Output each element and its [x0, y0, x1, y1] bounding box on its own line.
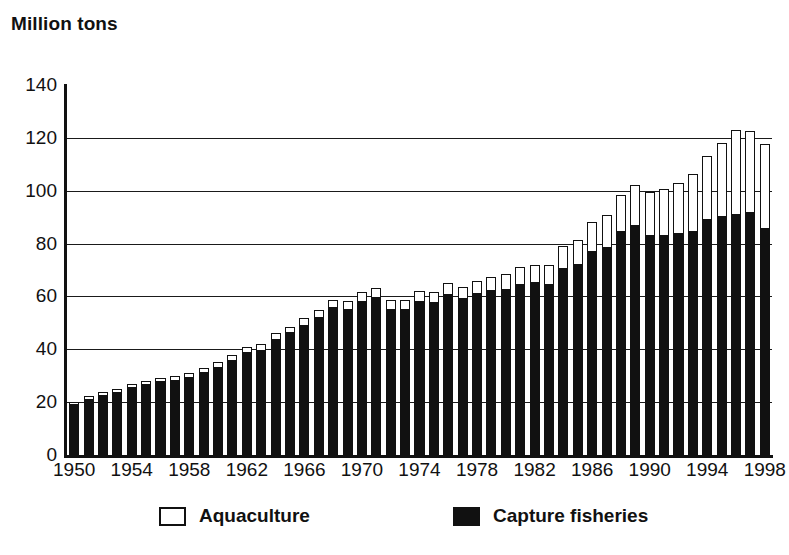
bar-segment-capture-1959	[199, 373, 209, 455]
bar-1992	[673, 183, 683, 455]
bar-segment-aquaculture-1988	[616, 195, 626, 232]
x-tick-label-1962: 1962	[226, 459, 268, 481]
bar-segment-capture-1952	[98, 396, 108, 455]
bar-1988	[616, 195, 626, 455]
bar-segment-aquaculture-1998	[760, 144, 770, 229]
x-tick-label-1958: 1958	[168, 459, 210, 481]
bar-segment-capture-1966	[299, 326, 309, 456]
bar-segment-aquaculture-1951	[84, 396, 94, 399]
bar-segment-aquaculture-1952	[98, 392, 108, 395]
bar-segment-capture-1956	[155, 382, 165, 455]
bar-segment-aquaculture-1996	[731, 130, 741, 215]
bar-1985	[573, 240, 583, 455]
bar-1990	[645, 192, 655, 455]
bar-segment-capture-1987	[602, 248, 612, 455]
bar-1976	[443, 283, 453, 455]
bar-1969	[343, 301, 353, 455]
bar-segment-aquaculture-1974	[414, 291, 424, 302]
x-axis-line	[64, 455, 773, 458]
bar-1951	[84, 396, 94, 455]
bar-1972	[386, 300, 396, 455]
legend-swatch-capture-fisheries-icon	[453, 507, 480, 526]
fishery-production-chart-figure: Million tons 140120100806040200 19501954…	[0, 0, 789, 555]
bar-segment-capture-1979	[486, 291, 496, 455]
bar-1959	[199, 368, 209, 455]
bar-1982	[530, 265, 540, 455]
x-tick-label-1994: 1994	[686, 459, 728, 481]
bar-1989	[630, 185, 640, 455]
bar-segment-aquaculture-1994	[702, 156, 712, 219]
bar-1987	[602, 215, 612, 456]
bar-segment-aquaculture-1960	[213, 362, 223, 368]
bar-1980	[501, 274, 511, 455]
bar-1950	[69, 402, 79, 455]
bar-segment-capture-1993	[688, 232, 698, 455]
y-tick-label-100: 100	[11, 181, 57, 200]
bar-segment-capture-1990	[645, 236, 655, 455]
bar-segment-capture-1953	[112, 393, 122, 455]
bar-segment-aquaculture-1977	[458, 287, 468, 299]
bar-segment-capture-1954	[127, 388, 137, 455]
bar-segment-aquaculture-1967	[314, 310, 324, 318]
bar-segment-aquaculture-1979	[486, 277, 496, 292]
bar-1993	[688, 174, 698, 455]
bar-1977	[458, 287, 468, 455]
bar-segment-aquaculture-1950	[69, 402, 79, 405]
bar-segment-capture-1951	[84, 400, 94, 456]
bar-segment-aquaculture-1980	[501, 274, 511, 290]
bar-segment-capture-1961	[227, 361, 237, 455]
y-tick-label-60: 60	[11, 286, 57, 305]
bar-segment-aquaculture-1984	[558, 246, 568, 268]
bar-segment-capture-1997	[745, 213, 755, 455]
bar-segment-capture-1976	[443, 295, 453, 455]
bar-1958	[184, 373, 194, 455]
bar-1986	[587, 222, 597, 455]
bar-segment-aquaculture-1961	[227, 355, 237, 361]
bar-1991	[659, 189, 669, 455]
x-tick-label-1974: 1974	[398, 459, 440, 481]
bar-segment-capture-1964	[271, 340, 281, 455]
bar-1956	[155, 378, 165, 455]
bar-segment-capture-1986	[587, 252, 597, 456]
bar-1975	[429, 292, 439, 455]
bar-1960	[213, 362, 223, 455]
bar-1983	[544, 265, 554, 455]
bar-segment-capture-1965	[285, 333, 295, 455]
bar-segment-capture-1998	[760, 229, 770, 455]
x-tick-label-1990: 1990	[629, 459, 671, 481]
bar-segment-capture-1981	[515, 285, 525, 455]
bar-segment-aquaculture-1953	[112, 389, 122, 393]
y-tick-label-20: 20	[11, 392, 57, 411]
bar-segment-capture-1985	[573, 265, 583, 455]
bar-1967	[314, 310, 324, 455]
bar-segment-aquaculture-1958	[184, 373, 194, 378]
bar-segment-capture-1970	[357, 302, 367, 455]
legend-label-aquaculture: Aquaculture	[199, 505, 310, 527]
bar-1998	[760, 144, 770, 455]
bar-segment-aquaculture-1963	[256, 344, 266, 350]
bar-segment-aquaculture-1972	[386, 300, 396, 310]
bar-segment-capture-1955	[141, 385, 151, 455]
bar-1995	[717, 143, 727, 455]
bar-segment-aquaculture-1966	[299, 318, 309, 325]
bar-1984	[558, 246, 568, 455]
x-tick-label-1966: 1966	[283, 459, 325, 481]
bar-segment-capture-1971	[371, 298, 381, 455]
bar-1968	[328, 300, 338, 455]
bar-segment-capture-1983	[544, 285, 554, 455]
bar-segment-capture-1977	[458, 299, 468, 455]
bar-segment-capture-1960	[213, 368, 223, 455]
bar-1964	[271, 333, 281, 455]
bar-series-group	[67, 85, 772, 455]
bar-segment-aquaculture-1992	[673, 183, 683, 235]
bar-segment-capture-1972	[386, 310, 396, 455]
bar-1962	[242, 347, 252, 455]
bar-1963	[256, 344, 266, 455]
bar-segment-capture-1958	[184, 378, 194, 455]
bar-segment-aquaculture-1965	[285, 327, 295, 334]
bar-1957	[170, 376, 180, 455]
chart-legend: Aquaculture Capture fisheries	[0, 503, 789, 535]
bar-segment-aquaculture-1983	[544, 265, 554, 285]
y-tick-label-140: 140	[11, 75, 57, 94]
bar-segment-capture-1978	[472, 294, 482, 455]
